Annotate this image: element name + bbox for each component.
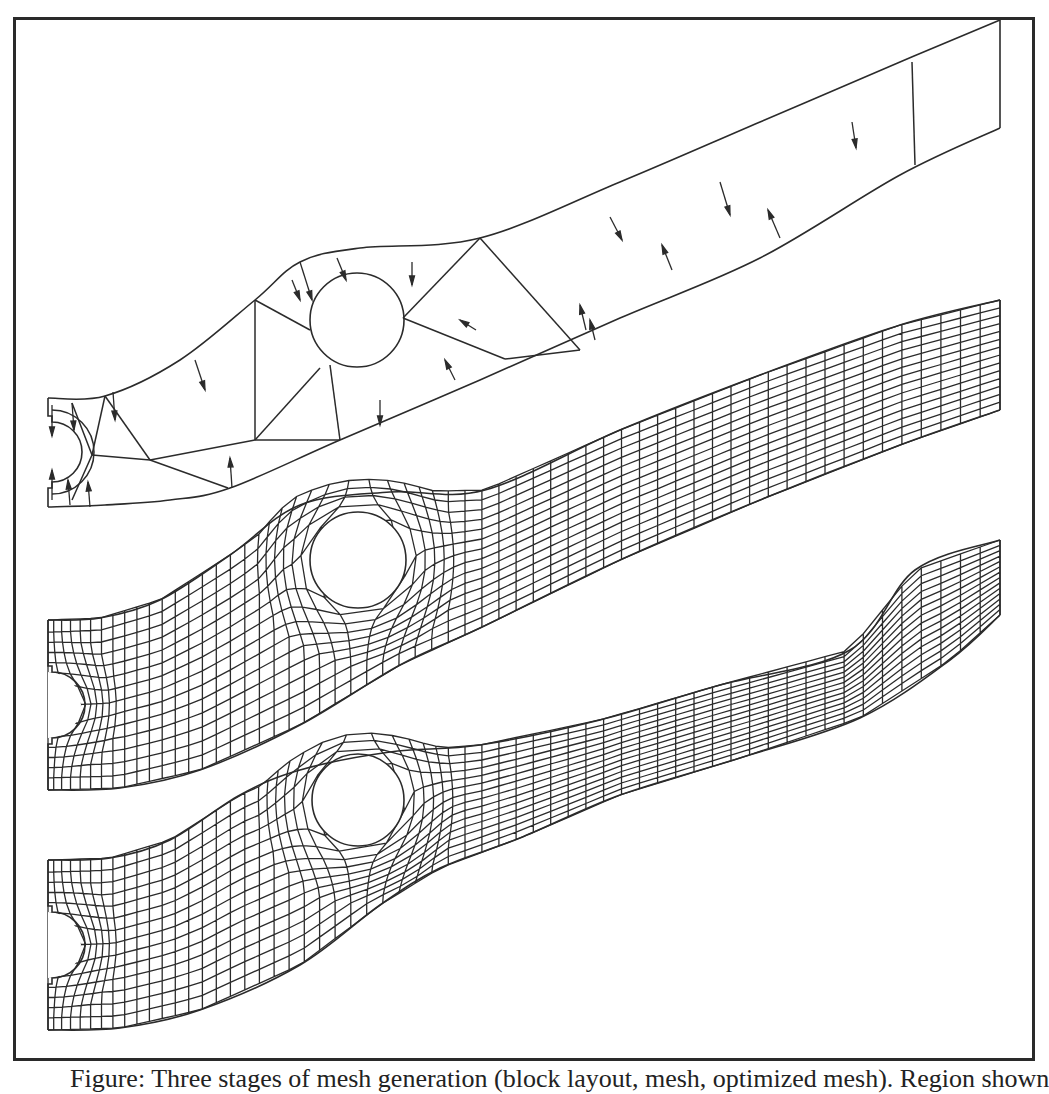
arrowhead-icon [616, 231, 622, 240]
mesh-grid [48, 300, 1000, 790]
bottom-edge [48, 410, 1000, 790]
bottom-edge [48, 615, 1000, 1030]
arrowhead-icon [725, 206, 730, 215]
block-edge [403, 318, 505, 359]
block-edge [505, 350, 580, 359]
arrowhead-icon [66, 480, 71, 489]
block-edge [480, 238, 580, 350]
arrowhead-icon [228, 458, 233, 467]
block-edge [912, 62, 915, 165]
arrowhead-icon [852, 139, 857, 148]
top-edge [48, 300, 1000, 620]
block-decomposition-panel [48, 20, 1000, 507]
arrowhead-icon [768, 210, 774, 219]
bottom-edge [48, 128, 1000, 507]
arrowhead-icon [662, 245, 668, 254]
block-edge [105, 396, 150, 460]
arrowhead-icon [460, 320, 469, 327]
initial-mesh-panel [48, 300, 1000, 790]
block-edge [255, 368, 320, 440]
arrowhead-icon [50, 470, 55, 479]
arrowhead-icon [50, 427, 55, 436]
block-edge [255, 300, 310, 330]
arrowhead-icon [445, 360, 451, 369]
mesh-grid [48, 540, 1000, 1030]
arrowhead-icon [294, 291, 300, 300]
optimized-mesh-panel [48, 540, 1000, 1030]
block-edge [150, 460, 228, 488]
block-edge [92, 455, 150, 460]
arrowhead-icon [307, 291, 312, 300]
arrowhead-icon [200, 381, 205, 390]
block-edge [330, 365, 340, 440]
pin-hole [310, 273, 404, 367]
arrowhead-icon [580, 305, 585, 314]
arrowhead-icon [590, 320, 595, 329]
top-edge [48, 20, 1000, 399]
figure-caption: Figure: Three stages of mesh generation … [0, 1064, 1049, 1094]
arrowhead-icon [112, 411, 117, 420]
block-edge [150, 440, 255, 460]
arrowhead-icon [410, 276, 415, 285]
arrowhead-icon [86, 482, 91, 491]
